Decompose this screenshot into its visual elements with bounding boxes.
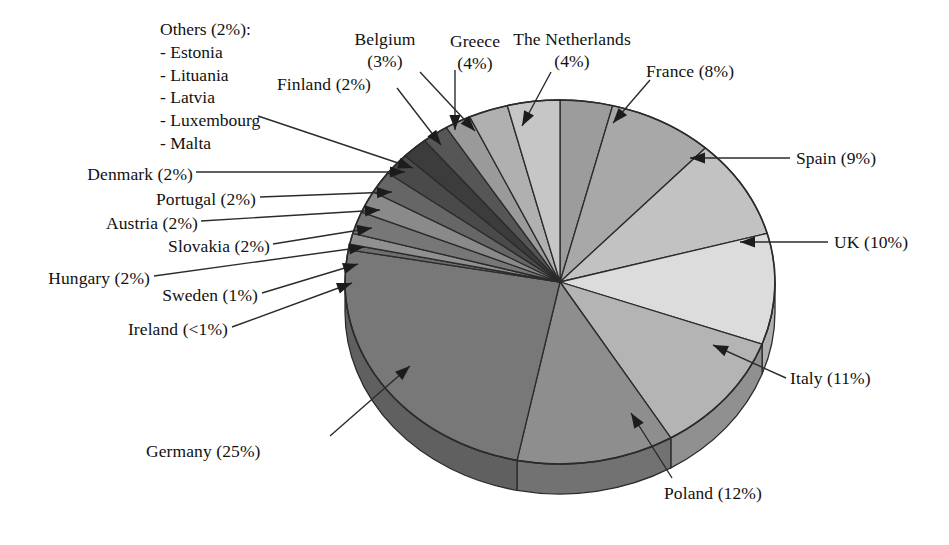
others-item-lituania: - Lituania [160, 64, 260, 87]
label-italy: Italy (11%) [790, 367, 871, 389]
label-germany: Germany (25%) [146, 440, 261, 462]
label-slovakia: Slovakia (2%) [0, 235, 270, 257]
label-uk: UK (10%) [834, 231, 908, 253]
leader-line-others [258, 116, 413, 168]
label-belgium: Belgium (3%) [335, 28, 435, 72]
others-heading: Others (2%): [160, 18, 260, 41]
label-finland: Finland (2%) [277, 73, 371, 95]
label-france: France (8%) [646, 60, 734, 82]
pie-top-surface [345, 100, 775, 464]
leader-line-austria [201, 210, 380, 221]
label-poland: Poland (12%) [664, 482, 762, 504]
label-austria: Austria (2%) [0, 212, 198, 234]
others-item-latvia: - Latvia [160, 86, 260, 109]
others-item-luxembourg: - Luxembourg [160, 109, 260, 132]
label-netherlands-pct: (4%) [498, 50, 646, 72]
others-item-estonia: - Estonia [160, 41, 260, 64]
label-portugal: Portugal (2%) [0, 188, 256, 210]
label-belgium-pct: (3%) [335, 50, 435, 72]
others-legend-block: Others (2%): - Estonia - Lituania - Latv… [160, 18, 260, 155]
label-sweden: Sweden (1%) [0, 284, 258, 306]
label-belgium-name: Belgium [335, 28, 435, 50]
label-netherlands: The Netherlands (4%) [498, 28, 646, 72]
pie-chart-figure: Others (2%): - Estonia - Lituania - Latv… [0, 0, 949, 545]
label-netherlands-name: The Netherlands [498, 28, 646, 50]
label-ireland: Ireland (<1%) [0, 318, 228, 340]
label-denmark: Denmark (2%) [0, 163, 193, 185]
label-spain: Spain (9%) [796, 147, 876, 169]
others-item-malta: - Malta [160, 132, 260, 155]
